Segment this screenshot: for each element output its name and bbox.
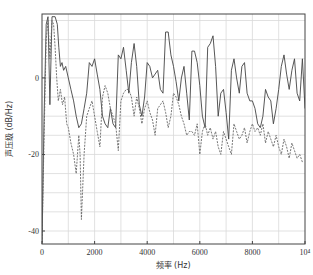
y-tick-label: 0 xyxy=(35,74,39,83)
y-tick-label: -40 xyxy=(28,227,39,236)
x-tick-label: 6000 xyxy=(192,248,208,257)
x-axis-ticks: 0200040006000800010⁴ xyxy=(40,241,311,257)
x-tick-label: 0 xyxy=(40,248,44,257)
x-tick-label: 4000 xyxy=(139,248,155,257)
x-tick-label: 8000 xyxy=(244,248,260,257)
y-axis-label: 声压级 (dB/Hz) xyxy=(4,101,14,157)
x-tick-label: 10⁴ xyxy=(300,248,311,257)
series-dashed-line xyxy=(42,21,302,243)
spl-chart: 0200040006000800010⁴ 0-20-40 频率 (Hz) 声压级… xyxy=(0,0,313,275)
x-axis-label: 频率 (Hz) xyxy=(156,260,191,270)
x-tick-label: 2000 xyxy=(87,248,103,257)
y-tick-label: -20 xyxy=(28,150,39,159)
